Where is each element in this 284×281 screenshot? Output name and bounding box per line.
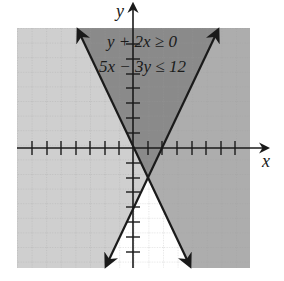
inequality-label-2: 5x − 3y ≤ 12 bbox=[99, 57, 186, 76]
inequality-graph: y + 2x ≥ 0 5x − 3y ≤ 12 x y bbox=[0, 0, 284, 281]
y-axis-label: y bbox=[114, 1, 124, 21]
x-axis-label: x bbox=[261, 151, 270, 171]
inequality-label-1: y + 2x ≥ 0 bbox=[105, 32, 177, 51]
